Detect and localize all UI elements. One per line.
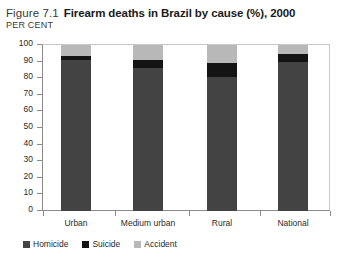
x-axis: UrbanMedium urbanRuralNational <box>42 211 330 235</box>
x-axis-tick-mark <box>260 211 261 216</box>
bar-segment-accident[interactable] <box>278 45 308 54</box>
page-title: Firearm deaths in Brazil by cause (%), 2… <box>64 7 296 19</box>
bar-segment-suicide[interactable] <box>207 63 237 76</box>
y-axis-unit-label: PER CENT <box>6 20 53 30</box>
y-axis-tick-label: 40 <box>24 138 33 149</box>
x-axis-tick-mark <box>330 211 331 216</box>
x-axis-tick-mark <box>189 211 190 216</box>
x-axis-tick-mark <box>115 211 116 216</box>
x-axis-tick-label: Rural <box>212 218 232 228</box>
bar-segment-homicide[interactable] <box>278 62 308 211</box>
legend-item-accident[interactable]: Accident <box>134 239 177 249</box>
legend-swatch-homicide <box>23 241 30 248</box>
bar-group[interactable] <box>278 45 308 211</box>
legend-label: Accident <box>144 239 177 249</box>
bar-segment-accident[interactable] <box>133 45 163 60</box>
bar-group[interactable] <box>61 45 91 211</box>
bar-segment-homicide[interactable] <box>207 77 237 211</box>
bar-stack <box>278 45 308 211</box>
bar-segment-suicide[interactable] <box>278 54 308 62</box>
y-axis-tick-label: 80 <box>24 71 33 82</box>
legend-item-homicide[interactable]: Homicide <box>23 239 68 249</box>
y-axis-tick-mark <box>37 44 42 45</box>
bar-segment-homicide[interactable] <box>133 68 163 211</box>
x-axis-tick-label: National <box>277 218 308 228</box>
x-axis-tick-label: Urban <box>64 218 87 228</box>
bar-group[interactable] <box>133 45 163 211</box>
legend-swatch-accident <box>134 241 141 248</box>
y-axis-tick-label: 60 <box>24 104 33 115</box>
y-axis-tick-mark <box>37 160 42 161</box>
y-axis-tick-label: 90 <box>24 55 33 66</box>
bar-stack <box>133 45 163 211</box>
y-axis-tick-mark <box>37 94 42 95</box>
bar-stack <box>207 45 237 211</box>
bar-segment-homicide[interactable] <box>61 60 91 211</box>
chart-legend: HomicideSuicideAccident <box>23 239 177 249</box>
bar-segment-accident[interactable] <box>61 45 91 56</box>
y-axis-tick-label: 50 <box>24 121 33 132</box>
legend-label: Homicide <box>33 239 68 249</box>
y-axis: 0102030405060708090100 <box>0 44 42 211</box>
y-axis-tick-mark <box>37 177 42 178</box>
y-axis-tick-label: 100 <box>19 38 33 49</box>
y-axis-tick-label: 70 <box>24 88 33 99</box>
x-axis-tick-label: Medium urban <box>121 218 175 228</box>
figure-header: Figure 7.1Firearm deaths in Brazil by ca… <box>6 3 295 21</box>
y-axis-tick-mark <box>37 127 42 128</box>
y-axis-tick-label: 20 <box>24 171 33 182</box>
legend-item-suicide[interactable]: Suicide <box>82 239 120 249</box>
y-axis-tick-label: 10 <box>24 187 33 198</box>
y-axis-tick-mark <box>37 193 42 194</box>
y-axis-tick-mark <box>37 77 42 78</box>
bar-stack <box>61 45 91 211</box>
bar-segment-suicide[interactable] <box>133 60 163 68</box>
bar-segment-accident[interactable] <box>207 45 237 63</box>
y-axis-tick-label: 0 <box>28 204 33 215</box>
legend-label: Suicide <box>92 239 120 249</box>
bars-layer <box>43 45 329 211</box>
figure-number: Figure 7.1 <box>6 7 59 19</box>
y-axis-tick-mark <box>37 144 42 145</box>
x-axis-tick-mark <box>43 211 44 216</box>
y-axis-tick-mark <box>37 61 42 62</box>
y-axis-tick-label: 30 <box>24 154 33 165</box>
y-axis-tick-mark <box>37 110 42 111</box>
bar-group[interactable] <box>207 45 237 211</box>
legend-swatch-suicide <box>82 241 89 248</box>
